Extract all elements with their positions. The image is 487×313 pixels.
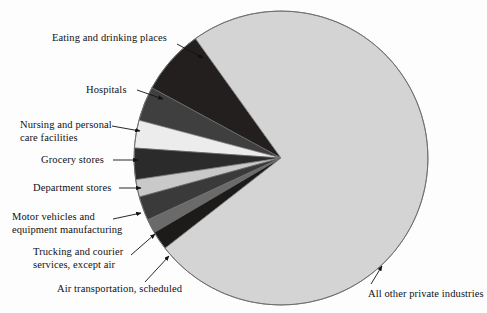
slice-label-line: All other private industries [368, 288, 484, 301]
leader-line-trucking-and-courier-services-except-air [131, 234, 155, 255]
slice-label-line: Air transportation, scheduled [57, 283, 182, 296]
slice-label-line: Eating and drinking places [52, 32, 167, 45]
slice-label-line: Trucking and courier [33, 246, 123, 259]
pie-slices [134, 11, 428, 305]
slice-label-line: care facilities [20, 132, 112, 145]
slice-label-line: Grocery stores [41, 154, 104, 167]
slice-label-air-transportation-scheduled: Air transportation, scheduled [57, 283, 182, 296]
slice-label-line: Hospitals [86, 84, 127, 97]
slice-label-department-stores: Department stores [33, 182, 111, 195]
slice-label-motor-vehicles-and-equipment-manufacturing: Motor vehicles andequipment manufacturin… [12, 211, 122, 236]
slice-label-nursing-and-personal-care-facilities: Nursing and personalcare facilities [20, 119, 112, 144]
leader-line-air-transportation-scheduled [145, 256, 169, 282]
slice-label-all-other-private-industries: All other private industries [368, 288, 484, 301]
slice-label-trucking-and-courier-services-except-air: Trucking and courierservices, except air [33, 246, 123, 271]
leader-line-nursing-and-personal-care-facilities [112, 126, 140, 131]
slice-label-line: equipment manufacturing [12, 224, 122, 237]
slice-label-line: Department stores [33, 182, 111, 195]
slice-label-hospitals: Hospitals [86, 84, 127, 97]
slice-label-eating-and-drinking-places: Eating and drinking places [52, 32, 167, 45]
slice-label-line: Motor vehicles and [12, 211, 122, 224]
slice-label-line: Nursing and personal [20, 119, 112, 132]
slice-label-line: services, except air [33, 259, 123, 272]
pie-chart: Eating and drinking placesHospitalsNursi… [0, 0, 487, 313]
slice-label-grocery-stores: Grocery stores [41, 154, 104, 167]
